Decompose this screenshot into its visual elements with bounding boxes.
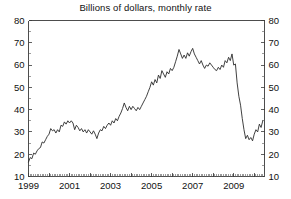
y-axis-tick-label-right: 20: [269, 149, 280, 160]
x-axis-tick-label: 2005: [141, 180, 162, 191]
x-axis-tick-label: 2009: [223, 180, 244, 191]
y-axis-tick-label-right: 50: [269, 82, 280, 93]
plot-frame: [29, 21, 265, 177]
y-axis-tick-label: 70: [14, 37, 25, 48]
y-axis-tick-label: 50: [14, 82, 25, 93]
y-axis-right-ticks: [261, 21, 265, 177]
y-axis-tick-label-right: 60: [269, 59, 280, 70]
y-axis-tick-label-right: 10: [269, 171, 280, 182]
y-axis-tick-label: 60: [14, 59, 25, 70]
y-axis-tick-label: 30: [14, 126, 25, 137]
x-axis-tick-label: 2003: [100, 180, 121, 191]
y-axis-tick-label-right: 30: [269, 126, 280, 137]
data-series-line: [29, 48, 263, 162]
x-axis-labels: 199920012003200520072009: [18, 180, 244, 191]
x-axis-tick-label: 2001: [59, 180, 80, 191]
y-axis-tick-label: 20: [14, 149, 25, 160]
chart-figure: Billions of dollars, monthly rate 102030…: [0, 0, 291, 199]
x-axis-tick-label: 2007: [182, 180, 203, 191]
x-axis-tick-label: 1999: [18, 180, 39, 191]
y-axis-right-labels: 1020304050607080: [269, 15, 280, 182]
y-axis-tick-label: 80: [14, 15, 25, 26]
y-axis-tick-label-right: 40: [269, 104, 280, 115]
y-axis-left-ticks: [29, 21, 33, 177]
y-axis-tick-label-right: 70: [269, 37, 280, 48]
data-series-group: [29, 48, 263, 162]
y-axis-left-labels: 1020304050607080: [14, 15, 25, 182]
y-axis-tick-label-right: 80: [269, 15, 280, 26]
y-axis-tick-label: 40: [14, 104, 25, 115]
line-chart-plot: 1020304050607080 1020304050607080 199920…: [0, 0, 291, 199]
